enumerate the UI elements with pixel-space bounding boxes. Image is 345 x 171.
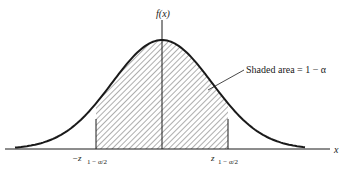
shaded-region xyxy=(15,40,305,149)
x-axis-label: x xyxy=(333,144,339,155)
left-bound-label: −z xyxy=(72,153,82,163)
right-bound-label: z xyxy=(210,153,215,163)
left-bound-subscript: 1 − α/2 xyxy=(87,158,108,166)
annotation-text: Shaded area = 1 − α xyxy=(246,64,327,75)
right-bound-subscript: 1 − α/2 xyxy=(218,158,239,166)
annotation-arrow xyxy=(208,70,244,90)
normal-curve-diagram: f(x) x Shaded area = 1 − α −z 1 − α/2 z … xyxy=(0,0,345,171)
y-axis-label: f(x) xyxy=(156,8,171,20)
